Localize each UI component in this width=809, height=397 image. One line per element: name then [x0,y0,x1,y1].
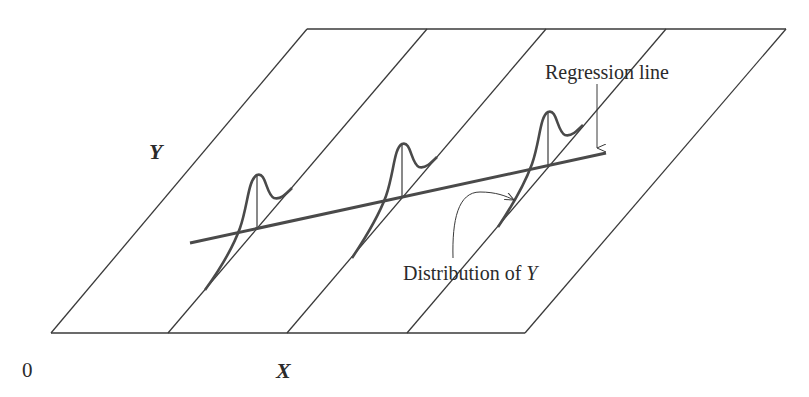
slant-line-3 [287,29,546,333]
distribution-pointer-arrow [453,192,514,258]
x-axis-label: X [276,360,291,382]
regression-diagram: Y X 0 Regression line Distribution of Y [0,0,809,397]
distribution-curve-3 [498,112,583,227]
diagram-canvas [0,0,809,397]
y-axis-label: Y [149,141,162,163]
distribution-curve-1 [205,175,292,290]
regression-line-label: Regression line [545,62,669,82]
slant-line-1 [51,29,307,333]
plane-frame [51,29,786,333]
distribution-label: Distribution of Y [403,263,537,283]
distribution-label-var: Y [526,262,537,284]
regression-line [190,153,606,243]
origin-label: 0 [22,360,33,381]
distribution-label-prefix: Distribution of [403,262,526,284]
